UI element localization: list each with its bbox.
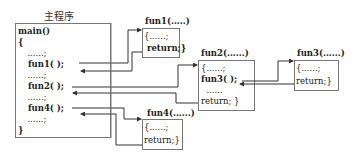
- arrow-fun2-to-fun3: [242, 61, 293, 81]
- call-flow-connectors: [0, 0, 356, 161]
- arrow-main-to-fun2: [72, 65, 197, 87]
- arrow-fun2-return: [73, 93, 198, 103]
